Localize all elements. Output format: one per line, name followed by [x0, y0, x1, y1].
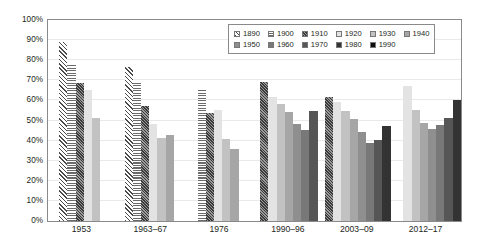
bar	[277, 104, 285, 221]
y-axis-tick-label: 100%	[22, 16, 43, 24]
bar	[412, 110, 420, 221]
bar	[268, 97, 276, 221]
bar	[333, 102, 341, 221]
legend-label: 1990	[379, 41, 396, 49]
bar	[222, 139, 230, 221]
bar	[341, 111, 349, 221]
y-axis-tick-label: 80%	[27, 56, 43, 64]
legend-item-1950[interactable]: 1950	[234, 41, 260, 49]
bar	[420, 123, 428, 221]
legend-item-1890[interactable]: 1890	[234, 30, 260, 38]
legend-label: 1910	[311, 30, 328, 38]
bar	[76, 83, 84, 221]
legend-label: 1940	[413, 30, 430, 38]
bar	[325, 97, 333, 221]
legend-swatch-icon	[302, 42, 308, 48]
y-axis-tick-label: 10%	[27, 197, 43, 205]
bar	[141, 106, 149, 221]
legend-swatch-icon	[370, 31, 376, 37]
legend-label: 1920	[345, 30, 362, 38]
bar	[350, 119, 358, 222]
x-axis-tick-label: 1976	[210, 225, 229, 234]
legend-swatch-icon	[404, 31, 410, 37]
bar	[92, 118, 100, 222]
bar	[293, 124, 301, 221]
bar	[67, 64, 75, 221]
bar	[285, 112, 293, 221]
legend-swatch-icon	[302, 31, 308, 37]
legend-item-1990[interactable]: 1990	[370, 41, 396, 49]
y-axis: 100%90%80%70%60%50%40%30%20%10%0%	[0, 19, 43, 222]
y-axis-tick-label: 90%	[27, 36, 43, 44]
legend-label: 1890	[243, 30, 260, 38]
bar	[166, 135, 174, 221]
legend-swatch-icon	[234, 42, 240, 48]
bar	[436, 125, 444, 221]
bar	[84, 90, 92, 221]
legend-item-1970[interactable]: 1970	[302, 41, 328, 49]
bar	[260, 82, 268, 221]
bar	[366, 143, 374, 221]
legend-swatch-icon	[370, 42, 376, 48]
legend-item-1960[interactable]: 1960	[268, 41, 294, 49]
x-axis-tick-label: 1953	[72, 225, 91, 234]
bar	[206, 113, 214, 221]
bar	[149, 124, 157, 221]
legend-label: 1960	[277, 41, 294, 49]
bar	[214, 110, 222, 221]
bar	[309, 111, 317, 221]
bar	[444, 118, 452, 222]
bar	[198, 89, 206, 221]
x-axis-tick-label: 2003–09	[340, 225, 373, 234]
bar-group	[59, 20, 100, 221]
legend-label: 1930	[379, 30, 396, 38]
legend-item-1900[interactable]: 1900	[268, 30, 294, 38]
bar	[382, 126, 390, 221]
legend-swatch-icon	[268, 42, 274, 48]
legend-swatch-icon	[234, 31, 240, 37]
legend-row: 189019001910192019301940	[234, 28, 429, 39]
bar	[133, 83, 141, 221]
legend-row: 19501960197019801990	[234, 39, 429, 50]
bar	[358, 132, 366, 221]
legend-item-1980[interactable]: 1980	[336, 41, 362, 49]
bar	[230, 149, 238, 221]
y-axis-tick-label: 50%	[27, 116, 43, 124]
legend-label: 1970	[311, 41, 328, 49]
bar	[59, 42, 67, 221]
bar	[125, 67, 133, 221]
bar	[428, 129, 436, 221]
legend-item-1910[interactable]: 1910	[302, 30, 328, 38]
legend-label: 1900	[277, 30, 294, 38]
legend-item-1940[interactable]: 1940	[404, 30, 430, 38]
legend-label: 1980	[345, 41, 362, 49]
y-axis-tick-label: 40%	[27, 136, 43, 144]
x-axis-tick-label: 1963–67	[134, 225, 167, 234]
bar	[403, 86, 411, 221]
legend-swatch-icon	[336, 31, 342, 37]
x-axis-tick-label: 1990–96	[271, 225, 304, 234]
bar	[374, 140, 382, 221]
bar	[301, 130, 309, 221]
bar-chart: 100%90%80%70%60%50%40%30%20%10%0% 195319…	[0, 0, 478, 250]
bar-group	[125, 20, 174, 221]
bar	[157, 138, 165, 221]
legend-item-1930[interactable]: 1930	[370, 30, 396, 38]
y-axis-tick-label: 60%	[27, 96, 43, 104]
y-axis-tick-label: 20%	[27, 177, 43, 185]
legend-item-1920[interactable]: 1920	[336, 30, 362, 38]
y-axis-tick-label: 70%	[27, 76, 43, 84]
y-axis-tick-label: 30%	[27, 157, 43, 165]
legend-swatch-icon	[336, 42, 342, 48]
x-axis-tick-label: 2012–17	[409, 225, 442, 234]
x-axis: 19531963–6719761990–962003–092012–17	[47, 225, 462, 243]
legend-label: 1950	[243, 41, 260, 49]
bar	[453, 100, 461, 221]
chart-legend: 1890190019101920193019401950196019701980…	[228, 24, 435, 54]
y-axis-tick-label: 0%	[31, 217, 43, 225]
legend-swatch-icon	[268, 31, 274, 37]
